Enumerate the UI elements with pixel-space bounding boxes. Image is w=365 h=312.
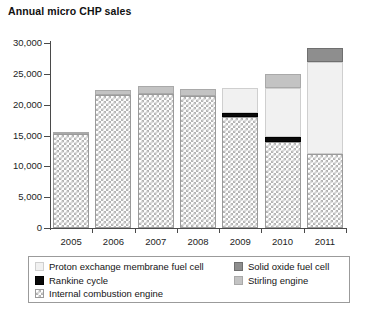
- bar-segment: [138, 86, 174, 94]
- bar-segment: [95, 95, 131, 228]
- legend-column-right: Solid oxide fuel cellStirling engine: [234, 260, 329, 287]
- legend-item[interactable]: Proton exchange membrane fuel cell: [35, 260, 204, 274]
- chart-legend: Proton exchange membrane fuel cellRankin…: [28, 256, 350, 303]
- bar-segment: [53, 134, 89, 228]
- y-axis-tick-label: 20,000: [2, 99, 42, 110]
- x-axis-tick-label: 2011: [300, 236, 350, 247]
- bar-2006[interactable]: [95, 43, 131, 228]
- x-axis-tick: [304, 228, 305, 233]
- bar-segment: [265, 137, 301, 141]
- y-axis-tick-label: 10,000: [2, 160, 42, 171]
- x-axis-tick: [219, 228, 220, 233]
- x-axis-tick: [92, 228, 93, 233]
- bar-segment: [53, 132, 89, 134]
- legend-column-left: Proton exchange membrane fuel cellRankin…: [35, 260, 204, 301]
- bar-segment: [222, 117, 258, 228]
- bar-segment: [307, 62, 343, 155]
- bar-segment: [307, 48, 343, 62]
- x-axis-tick: [135, 228, 136, 233]
- bar-2008[interactable]: [180, 43, 216, 228]
- sofc-swatch: [234, 262, 243, 271]
- legend-item[interactable]: Solid oxide fuel cell: [234, 260, 329, 274]
- y-axis-tick-label: 15,000: [2, 130, 42, 141]
- legend-label: Rankine cycle: [49, 276, 108, 286]
- bar-segment: [222, 88, 258, 113]
- legend-label: Stirling engine: [248, 276, 308, 286]
- bar-segment: [307, 154, 343, 228]
- x-axis-tick: [177, 228, 178, 233]
- bar-2007[interactable]: [138, 43, 174, 228]
- legend-label: Proton exchange membrane fuel cell: [49, 262, 204, 272]
- x-axis-tick: [346, 228, 347, 233]
- bar-segment: [180, 96, 216, 228]
- x-axis-line: [50, 228, 347, 229]
- bar-2011[interactable]: [307, 43, 343, 228]
- stirling-swatch: [234, 276, 243, 285]
- x-axis-tick: [261, 228, 262, 233]
- bar-segment: [95, 90, 131, 96]
- legend-label: Solid oxide fuel cell: [248, 262, 329, 272]
- bar-segment: [180, 89, 216, 96]
- bar-2010[interactable]: [265, 43, 301, 228]
- bar-2005[interactable]: [53, 43, 89, 228]
- legend-item[interactable]: Rankine cycle: [35, 274, 204, 288]
- plot-area: [50, 43, 346, 228]
- y-axis-tick-label: 25,000: [2, 68, 42, 79]
- y-axis-tick-label: 30,000: [2, 37, 42, 48]
- y-axis-tick-label: 0: [2, 222, 42, 233]
- legend-item[interactable]: Stirling engine: [234, 274, 329, 288]
- bar-segment: [265, 74, 301, 88]
- bar-segment: [222, 113, 258, 117]
- bar-segment: [265, 142, 301, 228]
- pem-swatch: [35, 262, 44, 271]
- bar-segment: [265, 88, 301, 137]
- bar-2009[interactable]: [222, 43, 258, 228]
- chart-container: Annual micro CHP sales 05,00010,00015,00…: [0, 0, 365, 312]
- bar-segment: [138, 94, 174, 228]
- ice-swatch: [35, 289, 44, 298]
- legend-item[interactable]: Internal combustion engine: [35, 287, 204, 301]
- y-axis-tick-label: 5,000: [2, 191, 42, 202]
- legend-label: Internal combustion engine: [49, 289, 163, 299]
- rankine-swatch: [35, 276, 44, 285]
